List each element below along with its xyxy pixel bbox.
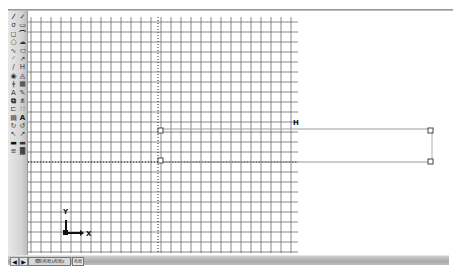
tab-layout[interactable]: 布局 <box>72 257 84 266</box>
tool-grid: ⁄✓σ▭◻⌒○☁∿⬭◜↗/H◉◬ǂ▦A✎⧉⋔⊏∷▤A↻↺↖↗▬▬≡▓ <box>9 13 27 156</box>
hatch-icon[interactable]: ◉ <box>9 72 18 80</box>
extend-icon[interactable]: ↗ <box>18 130 27 138</box>
polyline-icon[interactable]: σ <box>9 21 18 29</box>
scale-icon[interactable]: ↻ <box>9 122 18 130</box>
point-icon[interactable]: H <box>18 63 27 71</box>
trim-icon[interactable]: ↖ <box>9 130 18 138</box>
erase-icon[interactable]: ✎ <box>18 89 27 97</box>
polygon-icon[interactable]: ▭ <box>18 21 27 29</box>
offset-icon[interactable]: ⊏ <box>9 105 18 113</box>
rotate-icon[interactable]: A <box>18 114 27 122</box>
ellipse-icon[interactable]: ⬭ <box>18 47 27 55</box>
gradient-icon[interactable]: ◬ <box>18 72 27 80</box>
insert-block-icon[interactable]: ↗ <box>18 55 27 63</box>
rectangle-icon[interactable]: ◻ <box>9 30 18 38</box>
arc-icon[interactable]: ⌒ <box>18 30 27 38</box>
line-icon[interactable]: ⁄ <box>9 13 18 21</box>
array-icon[interactable]: ∷ <box>18 105 27 113</box>
copy-icon[interactable]: ⧉ <box>9 97 18 105</box>
construction-line-icon[interactable]: ✓ <box>18 13 27 21</box>
layout-tabs-bar: ◀ ▶ 模型/布局1/布局2 布局 <box>8 255 449 265</box>
move-icon[interactable]: ▤ <box>9 114 18 122</box>
tab-model-layouts[interactable]: 模型/布局1/布局2 <box>28 257 71 266</box>
fillet-icon[interactable]: ▓ <box>18 147 27 155</box>
draw-modify-toolbar: ⁄✓σ▭◻⌒○☁∿⬭◜↗/H◉◬ǂ▦A✎⧉⋔⊏∷▤A↻↺↖↗▬▬≡▓ <box>8 11 28 256</box>
chamfer-icon[interactable]: ≡ <box>9 147 18 155</box>
top-border <box>8 9 453 11</box>
revision-cloud-icon[interactable]: ☁ <box>18 38 27 46</box>
mirror-icon[interactable]: ⋔ <box>18 97 27 105</box>
ellipse-arc-icon[interactable]: ◜ <box>9 55 18 63</box>
grip-handle[interactable] <box>428 128 433 133</box>
circle-icon[interactable]: ○ <box>9 38 18 46</box>
stretch-icon[interactable]: ↺ <box>18 122 27 130</box>
make-block-icon[interactable]: / <box>9 63 18 71</box>
spline-icon[interactable]: ∿ <box>9 47 18 55</box>
table-icon[interactable]: ▦ <box>18 80 27 88</box>
join-icon[interactable]: ▬ <box>18 139 27 147</box>
region-icon[interactable]: ǂ <box>9 80 18 88</box>
prev-tab-button[interactable]: ◀ <box>10 257 19 266</box>
drawing-canvas[interactable] <box>28 17 298 253</box>
next-tab-button[interactable]: ▶ <box>19 257 28 266</box>
multiline-text-icon[interactable]: A <box>9 89 18 97</box>
grip-handle[interactable] <box>428 159 433 164</box>
break-icon[interactable]: ▬ <box>9 139 18 147</box>
